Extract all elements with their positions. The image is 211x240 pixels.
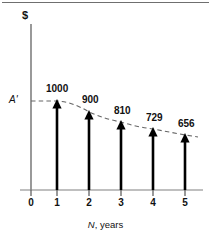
x-tick-label-1: 1 bbox=[48, 198, 66, 208]
x-tick-label-5: 5 bbox=[176, 198, 194, 208]
value-label-3: 810 bbox=[114, 106, 131, 116]
cash-flow-arrow-4 bbox=[148, 127, 157, 190]
x-tick-label-0: 0 bbox=[22, 198, 40, 208]
x-axis-caption: N, years bbox=[0, 220, 211, 230]
x-tick-label-2: 2 bbox=[80, 198, 98, 208]
cash-flow-arrow-3 bbox=[116, 120, 125, 190]
x-tick-label-3: 3 bbox=[112, 198, 130, 208]
value-label-4: 729 bbox=[146, 113, 163, 123]
cash-flow-arrow-2 bbox=[84, 110, 93, 190]
value-label-1: 1000 bbox=[46, 84, 68, 94]
x-tick-label-4: 4 bbox=[144, 198, 162, 208]
value-label-5: 656 bbox=[178, 119, 195, 129]
x-axis-caption-variable: N bbox=[88, 219, 95, 230]
value-label-2: 900 bbox=[82, 95, 99, 105]
cash-flow-diagram: $ A' bbox=[0, 0, 211, 240]
x-axis-caption-units: , years bbox=[95, 219, 124, 230]
cash-flow-arrow-1 bbox=[52, 99, 61, 190]
cash-flow-arrow-5 bbox=[180, 133, 189, 190]
